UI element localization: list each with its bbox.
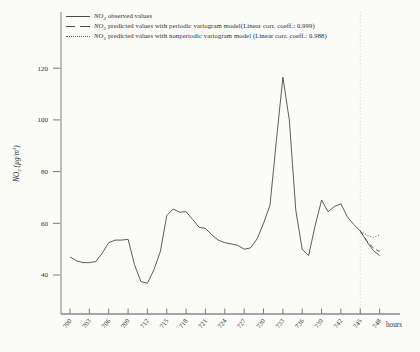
legend-label-text: predicted values with nonperiodic variog… [106,32,327,39]
legend-item-observed: NO2 observed values [66,11,327,21]
x-tick-label: 748 [371,317,383,330]
chart-svg: 7007037067097127157187217247277307337367… [0,0,420,352]
x-tick-label: 715 [158,317,170,330]
x-tick-label: 739 [313,317,325,330]
x-tick-label: 700 [61,317,73,330]
y-tick-label: 100 [38,116,49,124]
legend-item-nonperiodic: NO2 predicted values with nonperiodic va… [66,32,327,42]
legend-label-observed: NO2 observed values [94,12,152,21]
y-tick-label: 120 [38,65,49,73]
no2-symbol: NO [94,12,104,19]
x-axis-unit-label: hours [386,321,402,329]
x-tick-label: 733 [274,317,286,330]
chart-legend: NO2 observed values NO2 predicted values… [66,11,327,42]
legend-item-periodic: NO2 predicted values with periodic vario… [66,21,327,31]
y-tick-label: 60 [41,220,49,228]
legend-label-text: predicted values with periodic variogram… [106,22,315,29]
x-tick-label: 703 [81,317,93,330]
no2-symbol: NO [94,32,104,39]
y-tick-label: 80 [41,168,49,176]
no2-variogram-figure: 7007037067097127157187217247277307337367… [0,0,420,352]
x-tick-label: 727 [235,317,247,330]
dashed-line-sample-icon [66,26,90,27]
legend-label-nonperiodic: NO2 predicted values with nonperiodic va… [94,32,327,41]
x-tick-label: 718 [177,317,189,330]
y-unit-superscript: 3 [12,148,17,151]
y-unit-close: ) [13,145,21,147]
x-tick-label: 742 [332,317,344,329]
y-tick-label: 40 [41,271,49,279]
x-tick-label: 706 [100,317,112,330]
no2-symbol: NO [94,22,104,29]
legend-label-periodic: NO2 predicted values with periodic vario… [94,22,315,31]
x-tick-label: 745 [351,317,363,330]
y-axis-label: NO2 (µg/m3) [12,125,23,203]
x-tick-label: 712 [139,317,151,329]
solid-line-sample-icon [66,16,90,17]
periodic-prediction-line [360,231,379,252]
y-tick-group: 406080100120 [38,65,61,280]
no2-subscript: 2 [17,169,22,172]
dotted-line-sample-icon [66,36,90,37]
x-tick-label: 709 [119,317,131,330]
x-tick-group: 7007037067097127157187217247277307337367… [61,309,383,330]
x-tick-label: 730 [255,317,267,330]
x-tick-label: 724 [216,317,228,330]
observed-line [70,77,380,283]
x-tick-label: 736 [293,317,305,330]
legend-label-text: observed values [106,12,152,19]
y-unit-text: (µg/m [13,150,21,169]
no2-symbol: NO [13,172,21,182]
x-tick-label: 721 [197,317,209,329]
axes-group [61,12,400,314]
